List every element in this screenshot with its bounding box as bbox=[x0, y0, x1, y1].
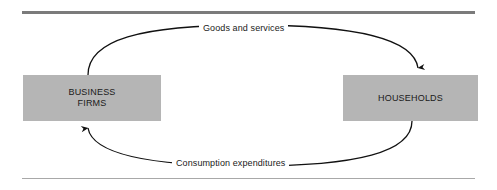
node-households[interactable]: HOUSEHOLDS bbox=[343, 75, 478, 121]
node-business-firms[interactable]: BUSINESS FIRMS bbox=[23, 75, 161, 121]
top-rule bbox=[22, 11, 475, 14]
bottom-rule bbox=[22, 178, 475, 179]
circular-flow-diagram: BUSINESS FIRMS HOUSEHOLDS Goods and serv… bbox=[0, 0, 497, 190]
node-households-label: HOUSEHOLDS bbox=[378, 93, 443, 104]
flow-label-goods-and-services: Goods and services bbox=[199, 23, 288, 33]
flow-label-consumption-expenditures: Consumption expenditures bbox=[172, 158, 289, 168]
node-business-firms-label: BUSINESS FIRMS bbox=[68, 87, 115, 109]
